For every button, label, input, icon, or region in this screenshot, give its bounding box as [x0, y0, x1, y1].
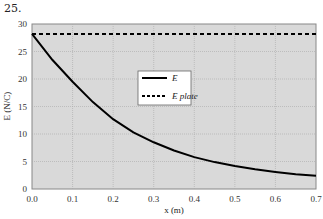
svg-text:0.6: 0.6 [270, 194, 282, 204]
svg-text:30: 30 [18, 19, 28, 29]
svg-text:0.7: 0.7 [310, 194, 322, 204]
svg-text:25: 25 [18, 47, 28, 57]
svg-text:15: 15 [18, 102, 28, 112]
svg-text:10: 10 [18, 129, 28, 139]
svg-text:0.0: 0.0 [26, 194, 38, 204]
svg-text:20: 20 [18, 74, 28, 84]
svg-text:0.1: 0.1 [67, 194, 78, 204]
svg-text:5: 5 [23, 157, 28, 167]
legend: E E plate [138, 71, 198, 105]
y-axis-label: E (N/C) [2, 92, 12, 121]
legend-e: E [171, 73, 178, 83]
svg-text:0.3: 0.3 [148, 194, 160, 204]
svg-text:0.5: 0.5 [229, 194, 241, 204]
svg-text:0.4: 0.4 [189, 194, 201, 204]
legend-e-plate: E plate [171, 91, 198, 101]
svg-text:0.2: 0.2 [108, 194, 119, 204]
svg-text:0: 0 [23, 184, 28, 194]
chart: 051015202530 0.00.10.20.30.40.50.60.7 E … [0, 0, 323, 219]
x-axis-label: x (m) [164, 205, 184, 215]
